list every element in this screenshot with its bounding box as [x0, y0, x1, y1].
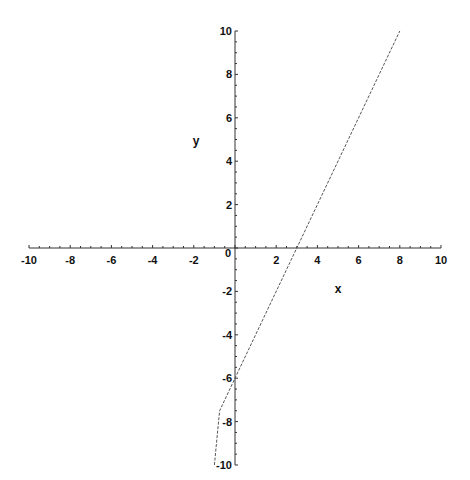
x-tick-label: -6 [107, 254, 117, 266]
y-tick-label: 4 [226, 155, 233, 167]
y-tick-label: -10 [216, 459, 232, 471]
y-axis-label: y [193, 134, 200, 148]
x-tick-label: -8 [65, 254, 75, 266]
x-tick-label: 8 [397, 254, 403, 266]
y-tick-label: 6 [226, 112, 232, 124]
plot-area: -10-8-6-4-2246810-10-8-6-4-22468100xy [0, 0, 470, 480]
origin-label: 0 [225, 247, 231, 259]
x-tick-label: 4 [314, 254, 321, 266]
x-tick-label: -4 [148, 254, 159, 266]
axes [29, 31, 441, 465]
y-tick-label: 10 [220, 25, 232, 37]
y-tick-label: -8 [222, 416, 232, 428]
y-tick-label: 8 [226, 68, 232, 80]
x-tick-label: -2 [189, 254, 199, 266]
y-tick-label: -4 [222, 329, 233, 341]
x-tick-label: -10 [21, 254, 37, 266]
x-tick-label: 6 [356, 254, 362, 266]
y-tick-label: -2 [222, 285, 232, 297]
y-tick-label: -6 [222, 372, 232, 384]
y-tick-label: 2 [226, 199, 232, 211]
x-tick-label: 10 [435, 254, 447, 266]
x-tick-label: 2 [273, 254, 279, 266]
x-axis-label: x [335, 282, 342, 296]
